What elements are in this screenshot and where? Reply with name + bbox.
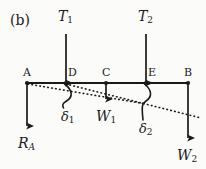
deflection-line-2 [66,84,201,118]
force-subscript-W1: 1 [110,115,116,125]
force-symbol-RA: R [18,135,29,151]
angle-arc-delta2 [142,84,150,120]
deflection-line-1 [28,84,146,104]
force-subscript-T1: 1 [67,15,73,25]
angle-subscript-delta1: 1 [69,115,75,125]
force-symbol-W2: W [177,147,191,163]
point-label-D: D [68,67,77,78]
force-subscript-T2: 2 [147,15,153,25]
point-label-E: E [148,67,156,78]
force-symbol-T1: T [58,8,67,24]
beam-free-body-diagram: (b) A D C E B T1 T2 W1 RA W2 δ1 δ2 [0,0,206,169]
panel-label: (b) [10,13,30,27]
angle-label-delta1: δ1 [61,110,75,125]
force-label-W1: W1 [96,109,116,125]
force-label-W2: W2 [177,148,197,164]
force-label-T1: T1 [58,9,73,25]
force-symbol-W1: W [96,108,110,124]
force-label-T2: T2 [138,9,153,25]
angle-arc-delta1 [63,84,71,108]
force-label-RA: RA [18,136,35,152]
point-label-A: A [23,67,31,78]
angle-label-delta2: δ2 [139,122,153,137]
force-subscript-W2: 2 [191,154,197,164]
force-symbol-T2: T [138,8,147,24]
point-label-C: C [102,67,110,78]
angle-symbol-delta1: δ [61,109,69,124]
angle-symbol-delta2: δ [139,121,147,136]
force-subscript-RA: A [29,142,36,152]
point-label-B: B [184,67,192,78]
angle-subscript-delta2: 2 [147,127,153,137]
